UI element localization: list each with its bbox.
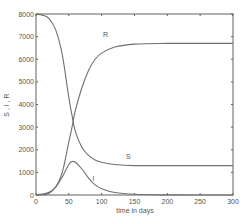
svg-text:50: 50 [65, 198, 73, 205]
svg-text:1000: 1000 [18, 169, 34, 176]
series-i-line [36, 161, 233, 195]
y-axis-label: S , I , R [3, 93, 10, 116]
label-s: S [126, 153, 131, 160]
svg-text:3000: 3000 [18, 124, 34, 131]
svg-text:100: 100 [96, 198, 108, 205]
svg-text:5000: 5000 [18, 78, 34, 85]
x-axis-label: time in days [116, 207, 154, 215]
svg-text:0: 0 [34, 198, 38, 205]
svg-text:0: 0 [30, 192, 34, 199]
svg-text:150: 150 [129, 198, 141, 205]
series-lines [36, 14, 233, 195]
series-s-line [36, 14, 233, 165]
svg-text:8000: 8000 [18, 11, 34, 18]
label-i: I [92, 175, 94, 182]
svg-text:2000: 2000 [18, 146, 34, 153]
sir-chart: 0501001502002503000100020003000400050006… [0, 0, 251, 224]
series-r-line [36, 43, 233, 195]
label-r: R [103, 31, 108, 38]
axes-frame [36, 14, 233, 195]
svg-text:6000: 6000 [18, 56, 34, 63]
svg-text:7000: 7000 [18, 33, 34, 40]
svg-text:300: 300 [227, 198, 239, 205]
svg-text:200: 200 [161, 198, 173, 205]
svg-text:250: 250 [194, 198, 206, 205]
svg-text:4000: 4000 [18, 101, 34, 108]
tick-labels: 0501001502002503000100020003000400050006… [18, 11, 239, 206]
